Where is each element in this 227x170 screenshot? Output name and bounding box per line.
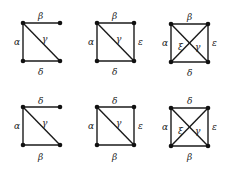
label-left: α xyxy=(14,37,20,47)
label-right: ε xyxy=(212,122,217,132)
vertex xyxy=(206,60,211,65)
label-diagonal: γ xyxy=(42,34,48,44)
vertex xyxy=(132,59,137,64)
label-bottom: δ xyxy=(112,67,117,77)
label-diagonal-1: γ xyxy=(195,126,201,136)
label-top: β xyxy=(37,11,43,21)
graph-panel-bottom-3: δ α ξ γ ε β xyxy=(162,96,217,162)
graph-panel-top-2: β α γ ε δ xyxy=(88,11,143,77)
vertex xyxy=(169,106,174,111)
vertex xyxy=(169,60,174,65)
label-bottom: δ xyxy=(38,67,43,77)
label-bottom: δ xyxy=(187,68,192,78)
graph-panel-top-1: β α γ δ xyxy=(14,11,62,77)
vertex xyxy=(21,143,26,148)
graph-panel-bottom-1: δ α γ β xyxy=(14,96,62,162)
vertex xyxy=(21,105,26,110)
label-right: ε xyxy=(138,37,143,47)
label-top: δ xyxy=(38,96,43,106)
vertex xyxy=(21,59,26,64)
vertex xyxy=(58,59,63,64)
vertex xyxy=(169,144,174,149)
vertex xyxy=(95,105,100,110)
label-left: α xyxy=(88,121,94,131)
label-left: α xyxy=(162,122,168,132)
vertex xyxy=(132,105,137,110)
vertex xyxy=(95,21,100,26)
label-diagonal: γ xyxy=(116,118,122,128)
label-left: α xyxy=(14,121,20,131)
label-top: δ xyxy=(112,96,117,106)
vertex xyxy=(206,22,211,27)
vertex xyxy=(169,22,174,27)
label-bottom: β xyxy=(37,152,43,162)
vertex xyxy=(58,143,63,148)
vertex xyxy=(58,105,63,110)
label-left: α xyxy=(162,38,168,48)
vertex xyxy=(21,21,26,26)
vertex xyxy=(132,143,137,148)
label-top: δ xyxy=(187,96,192,106)
label-diagonal: γ xyxy=(42,118,48,128)
label-bottom: β xyxy=(186,152,192,162)
label-right: ε xyxy=(138,121,143,131)
graph-panel-top-3: β α ξ γ ε δ xyxy=(162,12,217,78)
vertex xyxy=(58,21,63,26)
label-diagonal: γ xyxy=(116,34,122,44)
label-top: β xyxy=(111,11,117,21)
vertex xyxy=(132,21,137,26)
label-left: α xyxy=(88,37,94,47)
graph-diagram: β α γ δ β α γ ε δ β α ξ γ ε δ xyxy=(0,0,227,170)
vertex xyxy=(206,106,211,111)
vertex xyxy=(95,59,100,64)
label-right: ε xyxy=(212,38,217,48)
vertex xyxy=(95,143,100,148)
vertex xyxy=(206,144,211,149)
label-top: β xyxy=(186,12,192,22)
label-bottom: β xyxy=(111,152,117,162)
graph-panel-bottom-2: δ α γ ε β xyxy=(88,96,143,162)
label-diagonal-1: γ xyxy=(195,42,201,52)
